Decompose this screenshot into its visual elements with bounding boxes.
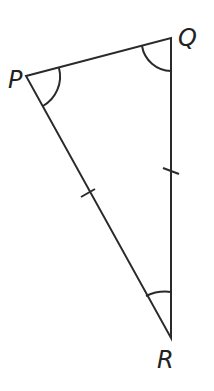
triangle-diagram: P Q R [0,0,214,391]
vertex-label-p: P [8,66,23,94]
angle-arc-p [43,68,60,106]
vertex-label-q: Q [178,24,197,52]
vertex-label-r: R [157,346,174,374]
angle-arc-r [146,292,171,296]
triangle-pqr [26,38,171,338]
angle-arc-q [142,46,171,71]
